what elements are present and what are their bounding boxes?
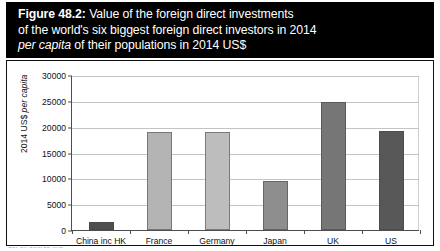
figure-number: Figure 48.2: — [18, 7, 86, 21]
gridline — [72, 205, 419, 206]
x-axis-tick-mark — [130, 230, 131, 234]
figure-title-line3: of their populations in 2014 US$ — [71, 38, 246, 52]
y-axis-tick-label: 30000 — [42, 71, 66, 81]
bar-germany — [205, 132, 230, 230]
figure-title-banner: Figure 48.2: Value of the foreign direct… — [6, 2, 434, 58]
y-axis-tick-mark — [68, 127, 72, 128]
y-axis-tick-label: 25000 — [42, 97, 66, 107]
y-axis-tick-mark — [68, 153, 72, 154]
figure-container: Figure 48.2: Value of the foreign direct… — [0, 0, 440, 251]
x-axis-tick-mark — [188, 230, 189, 234]
gridline — [72, 179, 419, 180]
plot-inner: 2014 US$ per capita 30000250002000015000… — [7, 61, 433, 245]
gridline — [72, 128, 419, 129]
x-axis-label-us: US — [385, 236, 397, 246]
y-axis-tick-label: 15000 — [42, 149, 66, 159]
x-axis-label-germany: Germany — [199, 236, 234, 246]
figure-title-line1: Value of the foreign direct investments — [86, 7, 294, 21]
source-note-cropped: cut-off source line — [0, 247, 440, 251]
bar-japan — [263, 181, 288, 230]
y-axis-tick-mark — [68, 179, 72, 180]
bar-us — [379, 131, 404, 230]
x-axis-tick-mark — [420, 230, 421, 234]
y-axis-title-italic: per capita — [19, 75, 29, 113]
bar-uk — [321, 102, 346, 230]
x-axis-tick-mark — [304, 230, 305, 234]
y-axis-tick-label: 10000 — [42, 174, 66, 184]
gridline — [72, 154, 419, 155]
x-axis-tick-mark — [72, 230, 73, 234]
y-axis-tick-label: 0 — [61, 226, 66, 236]
gridline — [72, 102, 419, 103]
source-note-text: cut-off source line — [0, 247, 440, 249]
figure-title-line3-italic: per capita — [18, 38, 71, 52]
x-axis-label-uk: UK — [327, 236, 339, 246]
x-axis-label-france: France — [146, 236, 173, 246]
y-axis-title: 2014 US$ per capita — [19, 75, 29, 153]
x-axis-label-japan: Japan — [263, 236, 286, 246]
plot-area: 300002500020000150001000050000China inc … — [71, 76, 419, 231]
y-axis-tick-mark — [68, 205, 72, 206]
y-axis-tick-label: 5000 — [47, 200, 66, 210]
y-axis-tick-mark — [68, 76, 72, 77]
y-axis-tick-mark — [68, 101, 72, 102]
bar-france — [147, 132, 172, 230]
y-axis-tick-label: 20000 — [42, 123, 66, 133]
x-axis-label-china-inc-hk: China inc HK — [76, 236, 126, 246]
chart-frame: 2014 US$ per capita 30000250002000015000… — [6, 60, 434, 246]
y-axis-title-prefix: 2014 US$ — [19, 112, 29, 153]
x-axis-tick-mark — [246, 230, 247, 234]
x-axis-tick-mark — [362, 230, 363, 234]
bar-china-inc-hk — [89, 222, 114, 230]
figure-title-line2: of the world's six biggest foreign direc… — [18, 23, 317, 37]
gridline — [72, 76, 419, 77]
